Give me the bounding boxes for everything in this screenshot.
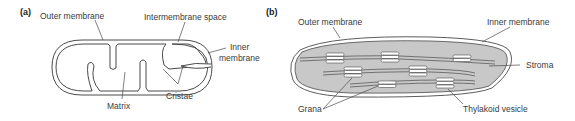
label-outer-membrane-a: Outer membrane xyxy=(40,11,105,21)
granum xyxy=(453,55,471,62)
label-inner-membrane-a-line2: membrane xyxy=(219,53,260,63)
chloroplast-stroma xyxy=(295,41,507,93)
label-inner-membrane-b: Inner membrane xyxy=(487,17,550,27)
label-matrix: Matrix xyxy=(107,101,131,111)
granum xyxy=(436,78,454,88)
leader-inner-membrane-b xyxy=(482,27,510,42)
panel-a-mitochondrion: (a) Outer membrane Intermembrane space I… xyxy=(20,7,260,111)
panel-b-chloroplast: (b) xyxy=(266,7,554,114)
leader-intermembrane-space xyxy=(178,22,185,42)
granum xyxy=(344,67,362,77)
label-cristae: Cristae xyxy=(166,91,193,101)
label-intermembrane-space: Intermembrane space xyxy=(144,12,227,22)
label-inner-membrane-a-line1: Inner xyxy=(230,42,250,52)
granum xyxy=(326,53,344,63)
granum xyxy=(378,81,396,88)
leader-outer-membrane-a xyxy=(95,20,103,40)
label-grana: Grana xyxy=(298,104,322,114)
label-stroma: Stroma xyxy=(526,60,554,70)
organelle-diagram: (a) Outer membrane Intermembrane space I… xyxy=(0,0,575,121)
panel-a-tag: (a) xyxy=(20,7,31,17)
granum xyxy=(409,66,427,76)
granum xyxy=(381,52,399,62)
label-outer-membrane-b: Outer membrane xyxy=(298,17,363,27)
leader-outer-membrane-b xyxy=(333,27,340,38)
label-thylakoid-vesicle: Thylakoid vesicle xyxy=(463,104,528,114)
panel-b-tag: (b) xyxy=(266,7,278,17)
